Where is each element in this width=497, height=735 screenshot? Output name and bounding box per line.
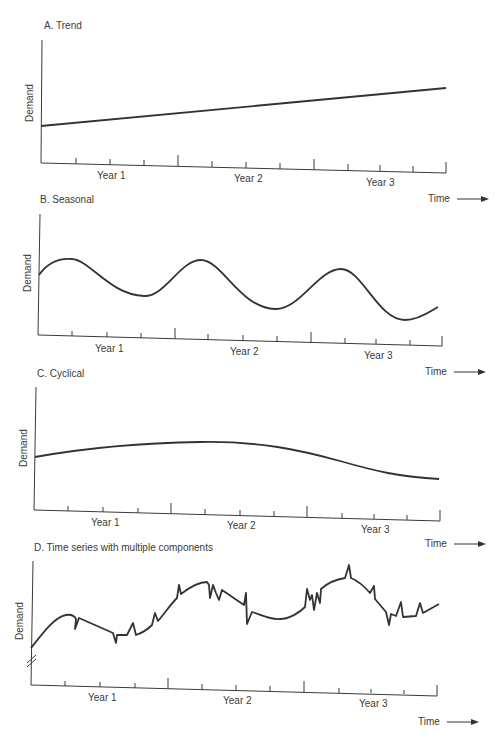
trend-chart — [0, 0, 497, 185]
trend-line — [41, 88, 446, 126]
x-tick-year-3: Year 3 — [359, 698, 388, 709]
x-tick-year-1: Year 1 — [88, 692, 117, 703]
seasonal-chart — [0, 180, 497, 360]
panel-cyclical: C. Cyclical Demand Year 1 Year 2 Year 3 — [0, 355, 497, 530]
arrow-right-icon — [447, 718, 479, 726]
cyclical-chart — [0, 355, 497, 530]
panel-trend: A. Trend Demand Year 1 Year 2 Year 3 — [0, 0, 497, 185]
multiple-components-line — [31, 565, 439, 648]
cyclical-line — [35, 442, 439, 479]
x-tick-year-1: Year 1 — [95, 343, 124, 354]
panel-multiple-components: D. Time series with multiple components … — [0, 525, 497, 735]
time-axis-label-d: Time — [418, 716, 479, 727]
seasonal-line — [39, 259, 438, 320]
panel-seasonal: B. Seasonal Demand Year 1 Year 2 Year 3 — [0, 180, 497, 360]
x-tick-year-2: Year 2 — [223, 695, 252, 706]
